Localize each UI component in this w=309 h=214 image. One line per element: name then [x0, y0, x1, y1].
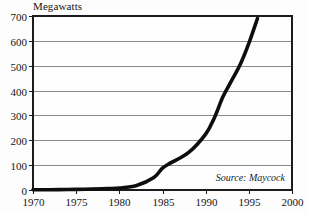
x-tick-label: 1980 [109, 196, 132, 208]
y-tick-label: 200 [11, 135, 28, 147]
x-tick-label: 1975 [66, 196, 89, 208]
x-axis-ticks: 1970197519801985199019952000 [23, 190, 305, 208]
y-tick-label: 600 [11, 36, 28, 48]
y-tick-label: 100 [11, 160, 28, 172]
x-tick-label: 1990 [196, 196, 219, 208]
y-tick-label: 700 [11, 11, 28, 23]
source-note: Source: Maycock [216, 172, 286, 183]
y-tick-label: 0 [22, 185, 28, 197]
plot-background [33, 16, 292, 190]
y-tick-label: 300 [11, 110, 28, 122]
x-tick-label: 2000 [282, 196, 305, 208]
y-axis-ticks: 0100200300400500600700 [11, 11, 34, 197]
chart-plot-area: 0100200300400500600700 19701975198019851… [0, 0, 309, 214]
x-tick-label: 1995 [239, 196, 262, 208]
y-tick-label: 500 [11, 61, 28, 73]
chart-container: Megawatts 0100200300400500600700 1970197… [0, 0, 309, 214]
x-tick-label: 1970 [23, 196, 46, 208]
y-tick-label: 400 [11, 86, 28, 98]
x-tick-label: 1985 [153, 196, 176, 208]
